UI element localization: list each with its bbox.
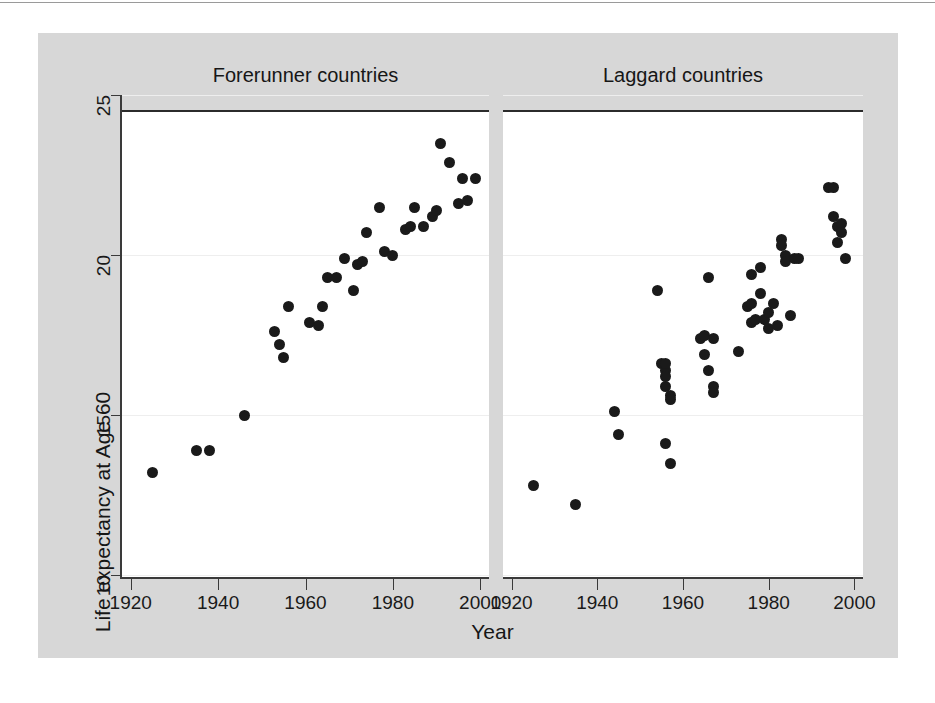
gridline: [122, 95, 489, 96]
y-axis-spine: [120, 95, 122, 579]
data-point: [274, 339, 285, 350]
x-axis-tick-label: 2000: [819, 592, 889, 614]
gridline: [503, 415, 863, 416]
data-point: [191, 445, 202, 456]
data-point: [204, 445, 215, 456]
data-point: [331, 272, 342, 283]
x-axis-tick-label: 1980: [734, 592, 804, 614]
x-axis-tick: [597, 579, 598, 590]
data-point: [317, 301, 328, 312]
x-axis-tick: [854, 579, 855, 590]
panel-title-laggard: Laggard countries: [503, 64, 863, 87]
data-point: [435, 138, 446, 149]
data-point: [470, 173, 481, 184]
x-axis-tick-label: 1920: [477, 592, 547, 614]
y-axis-title: Life expectancy at Age 60: [91, 347, 115, 677]
data-point: [793, 253, 804, 264]
x-axis-tick: [218, 579, 219, 590]
x-axis-spine-forerunner: [120, 577, 489, 579]
data-point: [278, 352, 289, 363]
x-axis-tick: [131, 579, 132, 590]
data-point: [708, 333, 719, 344]
data-point: [313, 320, 324, 331]
data-point: [374, 202, 385, 213]
data-point: [832, 237, 843, 248]
data-point: [665, 394, 676, 405]
data-point: [763, 307, 774, 318]
x-axis-tick-label: 1960: [648, 592, 718, 614]
x-axis-tick: [683, 579, 684, 590]
x-axis-tick: [769, 579, 770, 590]
data-point: [528, 480, 539, 491]
data-point: [703, 365, 714, 376]
data-point: [660, 438, 671, 449]
y-axis-tick-label-wrap: 25: [72, 85, 104, 105]
x-axis-tick-label: 1960: [271, 592, 341, 614]
data-point: [444, 157, 455, 168]
data-point: [570, 499, 581, 510]
gridline: [122, 575, 489, 576]
data-point: [361, 227, 372, 238]
panel-top-border: [122, 110, 489, 112]
data-point: [768, 298, 779, 309]
data-point: [418, 221, 429, 232]
data-point: [409, 202, 420, 213]
x-axis-tick-label: 1940: [562, 592, 632, 614]
x-axis-tick: [393, 579, 394, 590]
data-point: [431, 205, 442, 216]
data-point: [828, 182, 839, 193]
page-top-rule: [0, 2, 935, 3]
x-axis-title: Year: [122, 620, 863, 644]
data-point: [462, 195, 473, 206]
data-point: [457, 173, 468, 184]
panel-title-forerunner: Forerunner countries: [122, 64, 489, 87]
data-point: [405, 221, 416, 232]
figure-root: Forerunner countries Laggard countries 1…: [0, 0, 935, 703]
data-point: [339, 253, 350, 264]
data-point: [708, 387, 719, 398]
data-point: [733, 346, 744, 357]
data-point: [348, 285, 359, 296]
gridline: [122, 255, 489, 256]
x-axis-tick: [480, 579, 481, 590]
data-point: [699, 349, 710, 360]
data-point: [746, 298, 757, 309]
y-axis-tick-label: 20: [94, 255, 114, 276]
y-axis-title-wrap: Life expectancy at Age 60: [48, 180, 74, 510]
data-point: [357, 256, 368, 267]
x-axis-tick-label: 1980: [358, 592, 428, 614]
data-point: [785, 310, 796, 321]
data-point: [836, 227, 847, 238]
data-point: [755, 262, 766, 273]
y-axis-tick-label-wrap: 20: [72, 245, 104, 265]
gridline: [503, 95, 863, 96]
data-point: [652, 285, 663, 296]
gridline: [503, 575, 863, 576]
y-axis-tick-label: 25: [94, 95, 114, 116]
x-axis-tick-label: 1940: [183, 592, 253, 614]
x-axis-tick: [512, 579, 513, 590]
data-point: [613, 429, 624, 440]
data-point: [665, 458, 676, 469]
plot-panel-forerunner: [122, 110, 489, 577]
panel-top-border: [503, 110, 863, 112]
data-point: [147, 467, 158, 478]
data-point: [387, 250, 398, 261]
plot-panel-laggard: [503, 110, 863, 577]
data-point: [772, 320, 783, 331]
gridline: [503, 255, 863, 256]
data-point: [239, 410, 250, 421]
x-axis-tick: [306, 579, 307, 590]
data-point: [840, 253, 851, 264]
data-point: [283, 301, 294, 312]
data-point: [703, 272, 714, 283]
data-point: [755, 288, 766, 299]
data-point: [269, 326, 280, 337]
gridline: [122, 415, 489, 416]
